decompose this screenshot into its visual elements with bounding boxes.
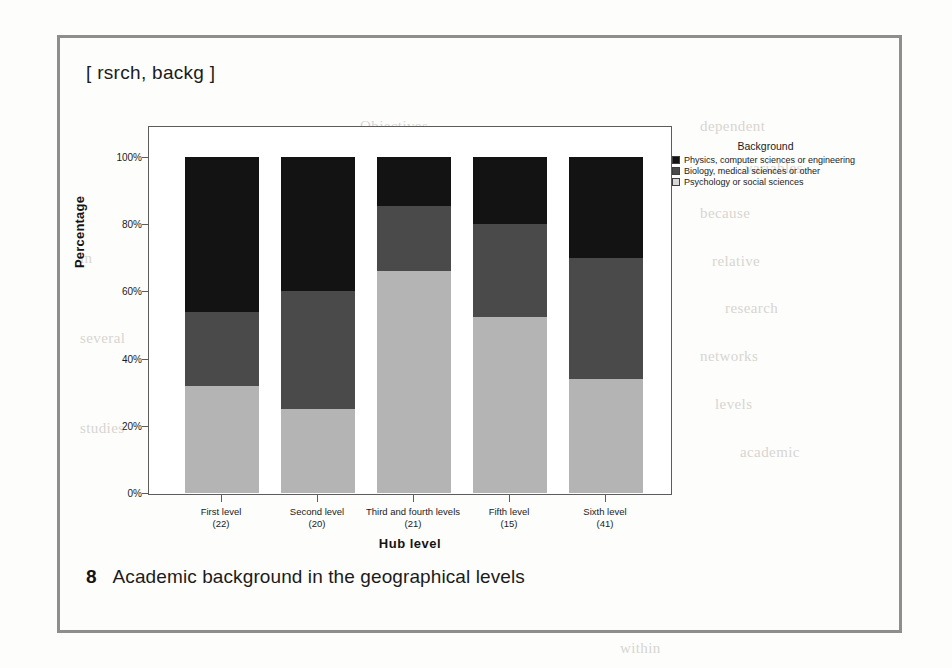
x-tick-mark <box>317 495 318 502</box>
bar-segment-biology <box>185 312 259 386</box>
y-axis-title-wrapper: Percentage <box>76 0 96 600</box>
bar-segment-physics <box>473 157 547 224</box>
caption-number: 8 <box>86 566 97 588</box>
bar-first-level[interactable] <box>185 157 259 493</box>
figure-caption: 8 Academic background in the geographica… <box>86 566 525 588</box>
bar-segment-psychology <box>185 386 259 494</box>
y-tick-label: 0% <box>128 488 142 499</box>
x-tick-mark <box>221 495 222 502</box>
legend: Background Physics, computer sciences or… <box>672 140 887 188</box>
x-axis-title: Hub level <box>148 536 672 551</box>
bar-segment-psychology <box>569 379 643 493</box>
y-tick-label: 100% <box>116 152 142 163</box>
bar-segment-physics <box>569 157 643 258</box>
x-tick-label-sixth-level: Sixth level (41) <box>540 506 670 530</box>
legend-item-physics[interactable]: Physics, computer sciences or engineerin… <box>672 155 887 165</box>
plot-area-frame <box>148 126 672 495</box>
y-axis-tick-labels: 0% 20% 40% 60% 80% 100% <box>100 126 142 495</box>
y-axis-title: Percentage <box>72 196 87 268</box>
plot-area <box>149 127 671 494</box>
bar-segment-physics <box>377 157 451 206</box>
bar-second-level[interactable] <box>281 157 355 493</box>
bar-segment-physics <box>185 157 259 312</box>
bar-segment-biology <box>281 291 355 409</box>
bar-sixth-level[interactable] <box>569 157 643 493</box>
y-tick-label: 20% <box>122 420 142 431</box>
bar-third-fourth-levels[interactable] <box>377 157 451 493</box>
bar-segment-psychology <box>473 317 547 493</box>
bar-fifth-level[interactable] <box>473 157 547 493</box>
figure-tag: [ rsrch, backg ] <box>86 62 215 84</box>
bar-segment-biology <box>377 206 451 272</box>
legend-item-psychology[interactable]: Psychology or social sciences <box>672 177 887 187</box>
legend-item-label: Physics, computer sciences or engineerin… <box>684 155 855 165</box>
legend-item-label: Psychology or social sciences <box>684 177 804 187</box>
caption-text: Academic background in the geographical … <box>113 566 525 588</box>
bar-segment-biology <box>473 224 547 316</box>
legend-item-label: Biology, medical sciences or other <box>684 166 820 176</box>
bar-segment-psychology <box>377 271 451 493</box>
y-tick-label: 80% <box>122 219 142 230</box>
x-tick-mark <box>509 495 510 502</box>
bar-segment-biology <box>569 258 643 379</box>
bar-segment-physics <box>281 157 355 291</box>
x-tick-mark <box>605 495 606 502</box>
y-tick-label: 60% <box>122 286 142 297</box>
y-tick-label: 40% <box>122 353 142 364</box>
figure-page: Objectives dependent variables because r… <box>0 0 952 668</box>
bar-segment-psychology <box>281 409 355 493</box>
legend-title: Background <box>672 140 887 152</box>
legend-item-biology[interactable]: Biology, medical sciences or other <box>672 166 887 176</box>
legend-swatch-icon <box>672 167 680 175</box>
legend-swatch-icon <box>672 178 680 186</box>
ghost-text: within <box>620 640 661 657</box>
x-tick-label-line1: Sixth level <box>540 506 670 518</box>
x-tick-label-line2: (41) <box>540 518 670 530</box>
x-tick-mark <box>413 495 414 502</box>
legend-swatch-icon <box>672 156 680 164</box>
